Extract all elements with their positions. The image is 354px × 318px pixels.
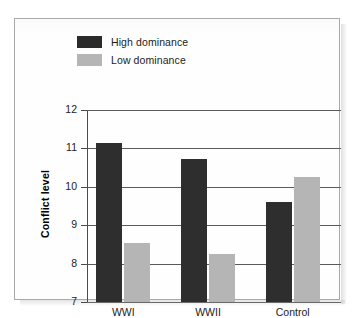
bar-wwi-high-dominance bbox=[96, 143, 122, 302]
y-tick-label-11: 11 bbox=[55, 141, 77, 153]
gridline-7 bbox=[87, 302, 341, 303]
y-tick-label-8: 8 bbox=[55, 257, 77, 269]
legend-swatch-low-dominance bbox=[77, 54, 102, 66]
legend-item-low-dominance: Low dominance bbox=[77, 51, 188, 69]
bar-wwii-low-dominance bbox=[209, 254, 235, 302]
legend-label-high-dominance: High dominance bbox=[111, 36, 188, 48]
figure-shadow-right bbox=[341, 24, 347, 304]
legend-label-low-dominance: Low dominance bbox=[111, 54, 186, 66]
bar-wwi-low-dominance bbox=[124, 243, 150, 302]
bar-control-high-dominance bbox=[266, 202, 292, 302]
gridline-12 bbox=[87, 110, 341, 111]
x-tick-label-wwii: WWII bbox=[178, 306, 238, 318]
y-tick-label-12: 12 bbox=[55, 103, 77, 115]
y-tick-label-9: 9 bbox=[55, 218, 77, 230]
x-tick-label-control: Control bbox=[263, 306, 323, 318]
bar-wwii-high-dominance bbox=[181, 159, 207, 302]
y-tick-label-10: 10 bbox=[55, 180, 77, 192]
bar-control-low-dominance bbox=[294, 177, 320, 302]
chart-legend: High dominance Low dominance bbox=[77, 33, 188, 69]
y-axis-title-label: Conflict level bbox=[39, 170, 51, 238]
x-tick-label-wwi: WWI bbox=[93, 306, 153, 318]
y-axis-title: Conflict level bbox=[38, 149, 52, 259]
gridline-11 bbox=[87, 148, 341, 149]
legend-item-high-dominance: High dominance bbox=[77, 33, 188, 51]
y-tick-label-7: 7 bbox=[55, 295, 77, 307]
plot-area bbox=[87, 110, 341, 302]
chart-figure-frame: High dominance Low dominance Conflict le… bbox=[14, 18, 340, 300]
legend-swatch-high-dominance bbox=[77, 36, 102, 48]
